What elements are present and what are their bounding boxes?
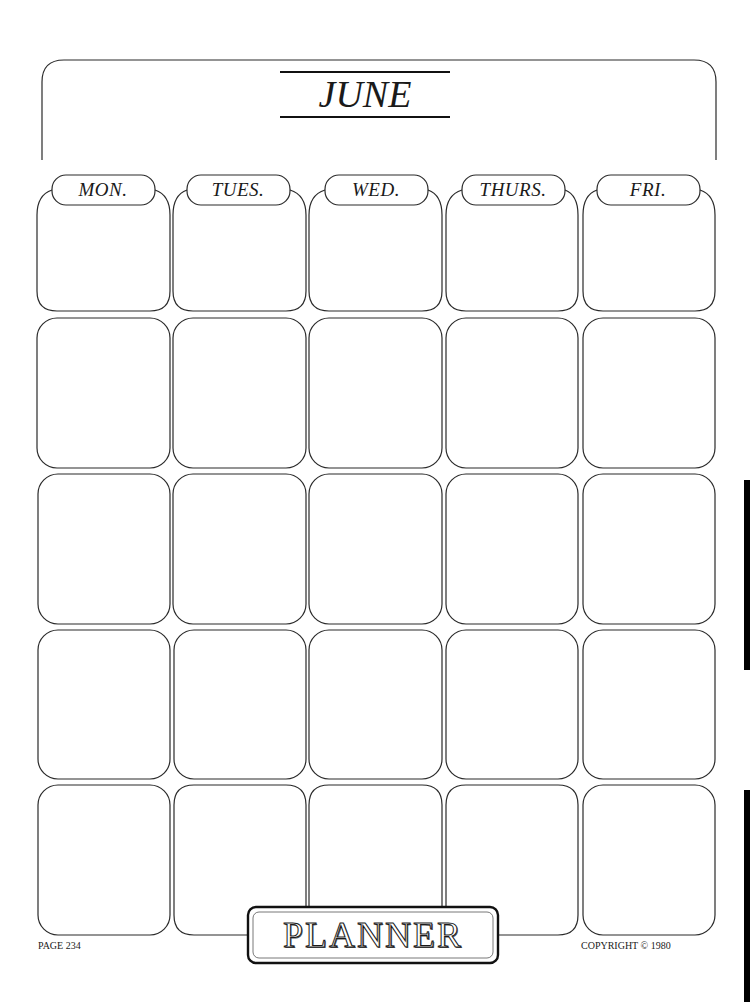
page-edge-shadow	[744, 480, 750, 670]
day-label-wed: WED.	[321, 175, 431, 205]
day-label-mon: MON.	[48, 175, 158, 205]
page-number: PAGE 234	[38, 940, 81, 952]
page-edge-shadow	[744, 790, 750, 1002]
day-label-thurs: THURS.	[458, 175, 568, 205]
day-label-fri: FRI.	[593, 175, 703, 205]
month-title: JUNE	[280, 72, 450, 116]
calendar-grid	[0, 0, 750, 1002]
copyright: COPYRIGHT © 1980	[581, 940, 671, 952]
day-label-tues: TUES.	[183, 175, 293, 205]
planner-label: PLANNER	[252, 910, 494, 960]
